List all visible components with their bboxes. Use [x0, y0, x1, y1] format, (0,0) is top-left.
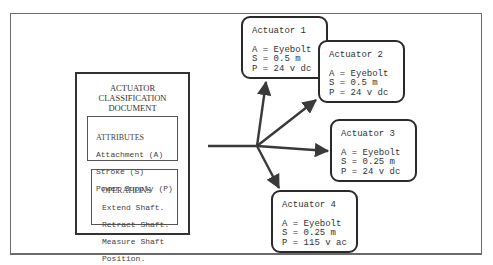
attributes-heading: ATTRIBUTES	[96, 134, 177, 143]
actuator-name: Actuator 1	[252, 27, 326, 37]
actuator-power: P = 24 v dc	[252, 65, 326, 75]
actuator-1-box: Actuator 1 A = Eyebolt S = 0.5 m P = 24 …	[241, 16, 328, 79]
operation-item: Position.	[102, 255, 177, 264]
actuator-name: Actuator 4	[282, 201, 356, 211]
operation-item: Retract Shaft.	[102, 221, 177, 230]
actuator-power: P = 24 v dc	[341, 168, 415, 178]
actuator-power: P = 24 v dc	[329, 89, 403, 99]
operations-heading: OPERATIONS	[102, 187, 177, 196]
actuator-name: Actuator 3	[341, 130, 415, 140]
attribute-item: Attachment (A)	[96, 151, 177, 160]
actuator-power: P = 115 v ac	[282, 239, 356, 249]
actuator-4-box: Actuator 4 A = Eyebolt S = 0.25 m P = 11…	[271, 190, 358, 253]
operations-box: OPERATIONS Extend Shaft. Retract Shaft. …	[91, 169, 178, 225]
operation-item: Measure Shaft	[102, 238, 177, 247]
document-title: ACTUATOR CLASSIFICATION DOCUMENT	[77, 83, 188, 113]
attributes-box: ATTRIBUTES Attachment (A) Stroke (S) Pow…	[87, 116, 178, 161]
actuator-2-box: Actuator 2 A = Eyebolt S = 0.5 m P = 24 …	[318, 40, 405, 103]
actuator-3-box: Actuator 3 A = Eyebolt S = 0.25 m P = 24…	[330, 119, 417, 182]
classification-document-box: ACTUATOR CLASSIFICATION DOCUMENT ATTRIBU…	[75, 72, 190, 235]
actuator-name: Actuator 2	[329, 51, 403, 61]
operation-item: Extend Shaft.	[102, 204, 177, 213]
